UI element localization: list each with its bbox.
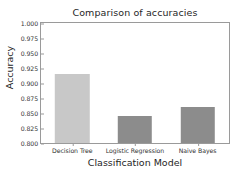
y-tick-label: 0.975 xyxy=(21,35,41,42)
x-tick-mark xyxy=(72,143,73,146)
x-tick: Naive Bayes xyxy=(179,143,217,154)
y-tick-label: 0.925 xyxy=(21,65,41,72)
x-axis-label: Classification Model xyxy=(40,157,230,168)
y-tick-mark xyxy=(41,68,44,69)
y-tick-mark xyxy=(41,23,44,24)
y-tick-mark xyxy=(41,83,44,84)
y-tick-mark xyxy=(41,113,44,114)
y-tick-label: 0.950 xyxy=(21,50,41,57)
bar xyxy=(118,116,152,143)
x-tick: Logistic Regression xyxy=(106,143,164,154)
y-axis-label: Accuracy xyxy=(4,38,15,98)
y-tick: 0.800 xyxy=(21,139,41,148)
y-tick-label: 0.800 xyxy=(21,140,41,147)
y-tick-label: 0.825 xyxy=(21,125,41,132)
x-tick-mark xyxy=(198,143,199,146)
y-tick: 0.900 xyxy=(21,79,41,88)
y-tick-label: 0.875 xyxy=(21,95,41,102)
y-tick: 0.850 xyxy=(21,109,41,118)
x-tick-mark xyxy=(135,143,136,146)
y-tick-mark xyxy=(41,143,44,144)
y-tick-mark xyxy=(41,38,44,39)
bar-chart-figure: Comparison of accuracies Accuracy 0.8000… xyxy=(0,0,248,172)
x-tick-label: Naive Bayes xyxy=(179,147,217,154)
y-tick: 0.925 xyxy=(21,64,41,73)
y-tick-label: 1.000 xyxy=(21,20,41,27)
y-tick: 1.000 xyxy=(21,19,41,28)
plot-area: 0.8000.8250.8500.8750.9000.9250.9500.975… xyxy=(40,22,230,144)
y-tick-mark xyxy=(41,53,44,54)
y-tick-label: 0.850 xyxy=(21,110,41,117)
y-tick-label: 0.900 xyxy=(21,80,41,87)
bar xyxy=(55,74,89,143)
x-tick-label: Decision Tree xyxy=(52,147,93,154)
bar xyxy=(180,107,214,143)
y-tick: 0.975 xyxy=(21,34,41,43)
y-tick-mark xyxy=(41,98,44,99)
y-tick: 0.825 xyxy=(21,124,41,133)
x-tick: Decision Tree xyxy=(52,143,93,154)
chart-title: Comparison of accuracies xyxy=(40,7,230,18)
y-tick-mark xyxy=(41,128,44,129)
x-tick-label: Logistic Regression xyxy=(106,147,164,154)
y-tick: 0.950 xyxy=(21,49,41,58)
y-tick: 0.875 xyxy=(21,94,41,103)
